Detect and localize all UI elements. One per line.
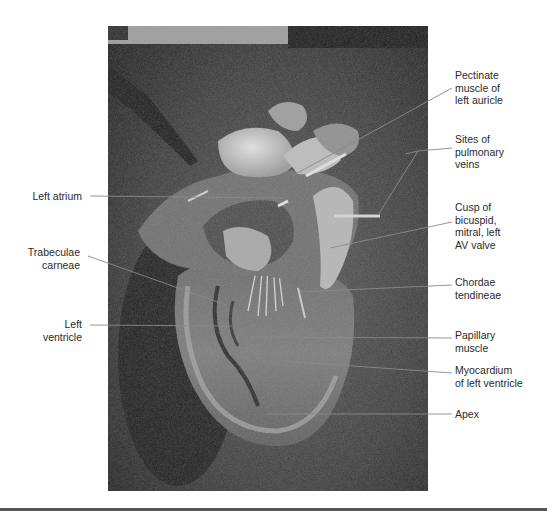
label-pectinate-muscle: Pectinate muscle of left auricle	[455, 69, 545, 107]
label-pulmonary-veins: Sites of pulmonary veins	[455, 133, 545, 171]
label-papillary-muscle: Papillary muscle	[455, 329, 545, 354]
label-chordae-tendineae: Chordae tendineae	[455, 276, 545, 301]
label-apex: Apex	[455, 408, 545, 421]
label-bicuspid-cusp: Cusp of bicuspid, mitral, left AV valve	[455, 201, 545, 251]
heart-dissection-photo	[108, 26, 428, 491]
bottom-divider	[0, 508, 547, 511]
label-trabeculae-carneae: Trabeculae carneae	[10, 246, 80, 271]
label-left-ventricle: Left ventricle	[10, 318, 82, 343]
label-left-atrium: Left atrium	[10, 190, 82, 203]
label-myocardium: Myocardium of left ventricle	[455, 364, 547, 389]
anatomy-figure: Left atrium Trabeculae carneae Left vent…	[0, 0, 547, 514]
